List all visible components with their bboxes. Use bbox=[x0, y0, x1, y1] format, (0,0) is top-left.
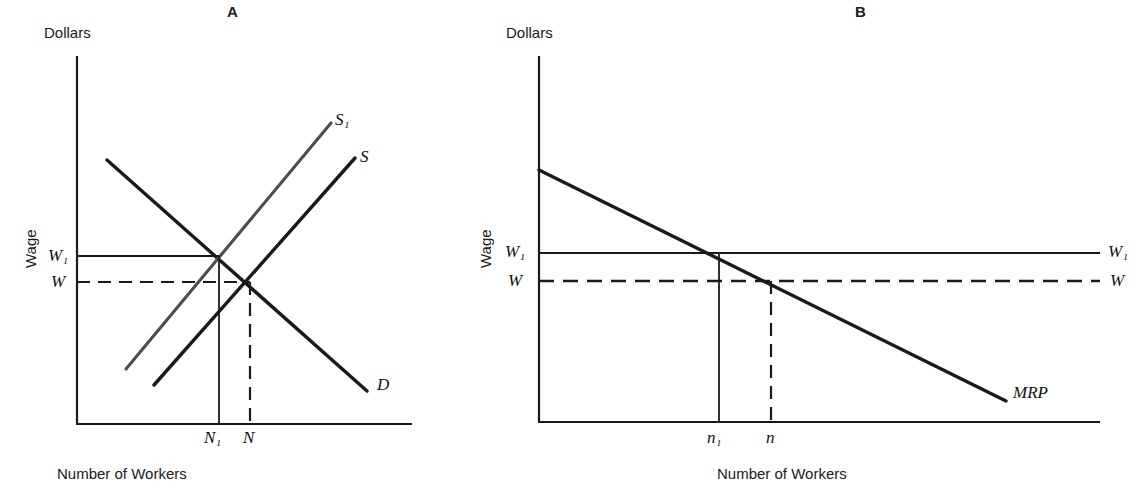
panel-b-plot bbox=[0, 0, 1145, 470]
panel-b-mrp-curve bbox=[539, 170, 1006, 401]
labor-market-figure: A Dollars Wage Number of Workers W₁ W N₁… bbox=[0, 0, 1145, 504]
